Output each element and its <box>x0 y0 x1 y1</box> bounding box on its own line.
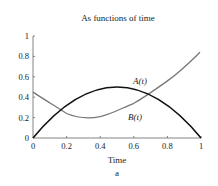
series-a-label: A(t) <box>132 76 147 86</box>
series-b-label: B(t) <box>128 112 142 122</box>
svg-text:0.6: 0.6 <box>128 141 139 151</box>
svg-text:0.8: 0.8 <box>18 51 29 61</box>
svg-text:1: 1 <box>25 31 29 41</box>
svg-text:0.6: 0.6 <box>18 72 29 82</box>
svg-text:0.8: 0.8 <box>162 141 173 151</box>
svg-text:0.2: 0.2 <box>18 113 29 123</box>
x-axis <box>33 136 201 138</box>
x-axis-label: Time <box>108 155 127 165</box>
series-a-line <box>33 87 201 138</box>
svg-text:0.2: 0.2 <box>61 141 72 151</box>
figure-caption: a <box>115 168 119 178</box>
svg-text:0: 0 <box>31 141 35 151</box>
line-chart: As functions of time 0 0.2 0.4 0.6 0.8 1… <box>0 0 218 186</box>
y-tick-labels: 0 0.2 0.4 0.6 0.8 1 <box>18 31 29 143</box>
series-b-line <box>33 52 200 118</box>
x-tick-labels: 0 0.2 0.4 0.6 0.8 1 <box>31 141 203 151</box>
svg-text:1: 1 <box>199 141 203 151</box>
chart-container: As functions of time 0 0.2 0.4 0.6 0.8 1… <box>0 0 218 186</box>
chart-title: As functions of time <box>81 13 155 23</box>
svg-text:0: 0 <box>25 133 29 143</box>
svg-text:0.4: 0.4 <box>18 92 29 102</box>
y-axis <box>33 36 35 138</box>
svg-text:0.4: 0.4 <box>95 141 106 151</box>
